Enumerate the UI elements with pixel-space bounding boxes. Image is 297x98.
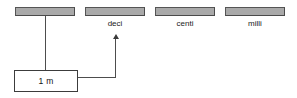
connector-line-vertical-base bbox=[45, 16, 46, 70]
arrow-up-icon bbox=[113, 34, 119, 39]
diagram-canvas: deci centi milli 1 m bbox=[0, 0, 297, 98]
label-milli: milli bbox=[225, 19, 285, 29]
label-centi: centi bbox=[155, 19, 215, 29]
value-box-one-meter: 1 m bbox=[14, 70, 78, 92]
bar-base bbox=[15, 7, 75, 16]
connector-line-horizontal bbox=[78, 77, 116, 78]
bar-milli bbox=[225, 7, 285, 16]
label-deci: deci bbox=[85, 19, 145, 29]
bar-centi bbox=[155, 7, 215, 16]
connector-line-vertical-deci bbox=[115, 38, 116, 78]
bar-deci bbox=[85, 7, 145, 16]
